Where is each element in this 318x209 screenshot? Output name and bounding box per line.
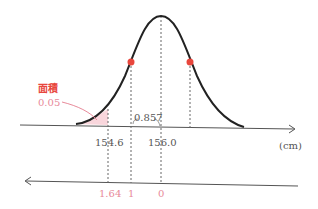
bell-curve bbox=[76, 16, 244, 127]
lower-axis-line bbox=[26, 181, 298, 186]
lower-tick-1: 1 bbox=[128, 188, 134, 199]
inflection-point-right bbox=[187, 59, 194, 66]
upper-tick-154-6: 154.6 bbox=[95, 137, 124, 148]
annotation-value: 0.05 bbox=[38, 97, 60, 108]
lower-tick-1-64: 1.64 bbox=[99, 188, 121, 199]
lower-tick-0: 0 bbox=[158, 188, 164, 199]
annotation-pointer bbox=[62, 102, 97, 120]
upper-tick-156-0: 156.0 bbox=[148, 137, 177, 148]
gap-label: 0.857 bbox=[134, 112, 163, 123]
dashed-guides bbox=[108, 16, 190, 184]
normal-distribution-diagram: 面積 0.05 0.857 154.6 156.0 (cm) 1.64 1 0 bbox=[0, 0, 318, 209]
inflection-point-left bbox=[128, 59, 135, 66]
upper-axis-unit: (cm) bbox=[279, 140, 302, 151]
annotation-title: 面積 bbox=[38, 82, 59, 94]
upper-axis-line bbox=[20, 125, 294, 129]
